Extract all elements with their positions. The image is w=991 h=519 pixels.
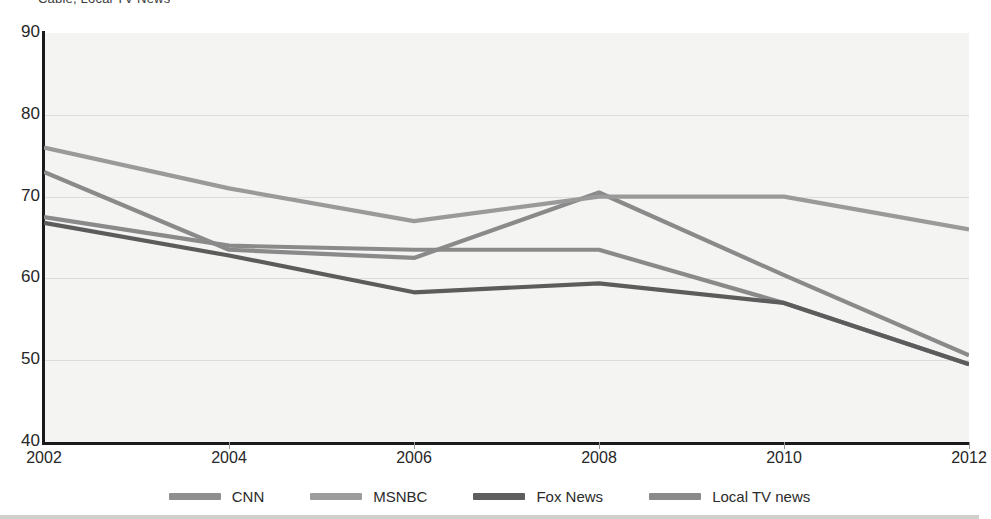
series-lines	[44, 33, 969, 442]
x-tick-mark	[414, 442, 415, 449]
x-tick-label: 2008	[564, 449, 634, 467]
x-tick-label: 2012	[934, 449, 991, 467]
x-tick-mark	[229, 442, 230, 449]
x-tick-mark	[784, 442, 785, 449]
x-tick-mark	[599, 442, 600, 449]
x-axis-line	[42, 442, 970, 445]
legend-swatch	[649, 493, 701, 500]
chart-legend: CNNMSNBCFox NewsLocal TV news	[0, 488, 979, 505]
x-tick-label: 2006	[379, 449, 449, 467]
legend-item-cnn[interactable]: CNN	[169, 488, 265, 505]
y-axis-tick-labels: 908070605040	[0, 0, 40, 445]
series-line-local-tv-news	[44, 148, 969, 230]
y-tick-label: 50	[6, 349, 40, 369]
legend-label: CNN	[232, 488, 265, 505]
series-line-msnbc	[44, 217, 969, 364]
legend-item-fox-news[interactable]: Fox News	[473, 488, 603, 505]
legend-label: MSNBC	[373, 488, 427, 505]
legend-swatch	[473, 493, 525, 500]
legend-swatch	[169, 493, 221, 500]
y-tick-label: 80	[6, 104, 40, 124]
legend-item-msnbc[interactable]: MSNBC	[310, 488, 427, 505]
x-tick-mark	[969, 442, 970, 449]
legend-label: Local TV news	[712, 488, 810, 505]
x-tick-label: 2004	[194, 449, 264, 467]
bottom-edge-artifact	[0, 515, 979, 519]
x-tick-label: 2010	[749, 449, 819, 467]
legend-label: Fox News	[536, 488, 603, 505]
y-tick-label: 90	[6, 22, 40, 42]
legend-item-local-tv-news[interactable]: Local TV news	[649, 488, 810, 505]
chart-title-clipped: Cable, Local TV News	[38, 0, 170, 7]
y-tick-label: 60	[6, 267, 40, 287]
x-tick-label: 2002	[9, 449, 79, 467]
y-tick-label: 40	[6, 431, 40, 451]
series-line-cnn	[44, 172, 969, 355]
y-tick-label: 70	[6, 186, 40, 206]
legend-swatch	[310, 493, 362, 500]
